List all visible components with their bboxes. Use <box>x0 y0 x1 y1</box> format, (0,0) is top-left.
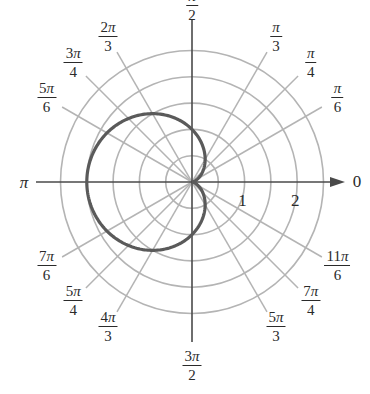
angle-label-210: 7π6 <box>37 249 56 283</box>
grid-ray <box>192 182 267 312</box>
angle-label-0: 0 <box>353 173 362 190</box>
angle-label-150: 5π6 <box>37 81 56 115</box>
angle-label-330: 11π6 <box>325 249 351 283</box>
angle-label-240: 4π3 <box>98 310 117 344</box>
arrow-head-icon <box>330 177 345 187</box>
angle-label-120: 2π3 <box>98 20 117 54</box>
angle-label-30: π6 <box>332 81 344 115</box>
angle-label-60: π3 <box>270 20 282 54</box>
angle-label-300: 5π3 <box>266 310 285 344</box>
angle-label-315: 7π4 <box>301 284 320 318</box>
radial-label-1: 1 <box>238 192 247 209</box>
angle-label-270: 3π2 <box>182 349 201 383</box>
grid-ray <box>192 52 267 182</box>
angle-label-225: 5π4 <box>64 284 83 318</box>
angle-label-135: 3π4 <box>64 46 83 80</box>
grid-ray <box>192 182 322 257</box>
angle-label-45: π4 <box>305 46 317 80</box>
grid-ray <box>192 107 322 182</box>
angle-label-180: π <box>20 174 29 191</box>
radial-label-2: 2 <box>291 192 300 209</box>
angle-label-90: π2 <box>186 0 198 23</box>
